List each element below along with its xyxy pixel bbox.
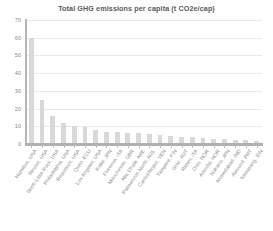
bar [72,126,77,144]
y-axis-ticklabels: 010203040506070 [0,20,24,144]
y-axis-ticklabel: 70 [15,17,21,23]
bar-series [26,20,262,144]
chart-figure: Total GHG emissions per capita (t CO2e/c… [0,0,273,231]
bar [61,123,66,144]
y-axis-ticklabel: 40 [15,70,21,76]
bar [50,116,55,144]
y-axis-ticklabel: 20 [15,106,21,112]
plot-area [26,20,262,144]
y-axis-line [25,19,27,145]
x-axis-ticklabels: Hamilton, USAReston, USANorth Little Roc… [26,148,262,228]
y-axis-ticklabel: 60 [15,35,21,41]
bar [29,38,34,144]
bar [93,130,98,144]
bar [40,100,45,144]
bar [83,127,88,144]
y-axis-ticklabel: 10 [15,123,21,129]
y-axis-ticklabel: 30 [15,88,21,94]
plot-wrapper: 010203040506070 Hamilton, USAReston, USA… [0,0,273,231]
y-axis-ticklabel: 0 [18,141,21,147]
y-axis-ticklabel: 50 [15,52,21,58]
